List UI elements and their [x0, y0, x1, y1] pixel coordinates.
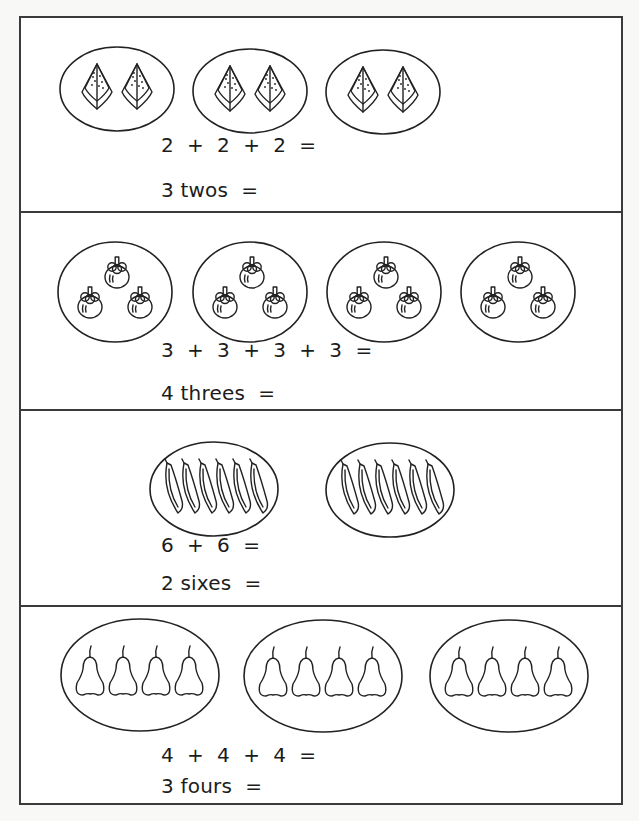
group-ellipse — [60, 47, 174, 131]
section-banana-groups — [150, 442, 454, 537]
banana-icon — [199, 459, 217, 513]
watermelon-slice-icon — [388, 67, 418, 112]
addition-sentence: 4 + 4 + 4 = — [161, 744, 316, 766]
mangosteen-icon — [508, 257, 532, 288]
banana-icon — [341, 460, 359, 514]
mangosteen-icon — [397, 287, 421, 318]
addition-sentence: 3 + 3 + 3 + 3 = — [161, 339, 372, 361]
addition-sentence: 2 + 2 + 2 = — [161, 134, 316, 156]
banana-icon — [165, 459, 183, 513]
banana-icon — [182, 459, 200, 513]
pear-icon — [511, 647, 539, 696]
banana-icon — [233, 459, 251, 513]
mangosteen-icon — [263, 287, 287, 318]
group-ellipse — [430, 620, 588, 732]
mangosteen-icon — [78, 287, 102, 318]
mangosteen-icon — [105, 257, 129, 288]
fruit-group — [150, 442, 278, 536]
pear-icon — [76, 646, 104, 695]
banana-icon — [250, 459, 268, 513]
worksheet-page: 2 + 2 + 2 = 3 twos = 3 + 3 + 3 + 3 = 4 t… — [0, 0, 639, 821]
pear-icon — [259, 647, 287, 696]
banana-icon — [392, 460, 410, 514]
section-pear-groups — [61, 619, 588, 732]
banana-icon — [426, 460, 444, 514]
multiplication-sentence: 2 sixes = — [161, 572, 261, 594]
banana-icon — [409, 460, 427, 514]
fruit-illustrations — [0, 0, 639, 821]
mangosteen-icon — [347, 287, 371, 318]
pear-icon — [292, 647, 320, 696]
pear-icon — [175, 646, 203, 695]
addition-sentence: 6 + 6 = — [161, 534, 260, 556]
watermelon-slice-icon — [82, 64, 112, 109]
banana-icon — [216, 459, 234, 513]
group-ellipse — [326, 50, 440, 134]
fruit-group — [60, 47, 174, 131]
multiplication-sentence: 4 threes = — [161, 382, 275, 404]
fruit-group — [193, 49, 307, 133]
group-ellipse — [244, 620, 402, 732]
group-ellipse — [150, 442, 278, 536]
pear-icon — [325, 647, 353, 696]
section-watermelon-groups — [60, 47, 440, 134]
fruit-group — [193, 242, 307, 342]
watermelon-slice-icon — [122, 64, 152, 109]
watermelon-slice-icon — [215, 66, 245, 111]
watermelon-slice-icon — [348, 67, 378, 112]
pear-icon — [109, 646, 137, 695]
fruit-group — [326, 50, 440, 134]
pear-icon — [478, 647, 506, 696]
mangosteen-icon — [481, 287, 505, 318]
mangosteen-icon — [531, 287, 555, 318]
mangosteen-icon — [374, 257, 398, 288]
group-ellipse — [193, 49, 307, 133]
fruit-group — [326, 443, 454, 537]
mangosteen-icon — [240, 257, 264, 288]
fruit-group — [58, 242, 172, 342]
fruit-group — [61, 619, 219, 731]
pear-icon — [544, 647, 572, 696]
mangosteen-icon — [128, 287, 152, 318]
pear-icon — [142, 646, 170, 695]
pear-icon — [358, 647, 386, 696]
group-ellipse — [326, 443, 454, 537]
banana-icon — [358, 460, 376, 514]
multiplication-sentence: 3 fours = — [161, 775, 262, 797]
multiplication-sentence: 3 twos = — [161, 179, 258, 201]
section-mangosteen-groups — [58, 242, 575, 342]
watermelon-slice-icon — [255, 66, 285, 111]
mangosteen-icon — [213, 287, 237, 318]
group-ellipse — [61, 619, 219, 731]
pear-icon — [445, 647, 473, 696]
fruit-group — [327, 242, 441, 342]
fruit-group — [461, 242, 575, 342]
banana-icon — [375, 460, 393, 514]
fruit-group — [430, 620, 588, 732]
fruit-group — [244, 620, 402, 732]
